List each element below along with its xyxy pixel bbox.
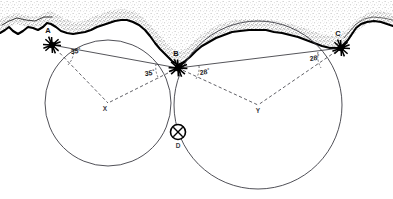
angle-label-at-B-right: 28° xyxy=(199,67,210,76)
point-label-D: D xyxy=(176,142,181,149)
station-label-A: A xyxy=(45,26,51,35)
land-stipple-fill xyxy=(0,0,393,70)
point-label-X: X xyxy=(103,105,108,112)
svg-text:28°: 28° xyxy=(199,67,210,76)
construction-line-B-Y xyxy=(178,68,258,105)
angle-degree-sign-at-B-left: ° xyxy=(152,68,155,74)
coastline-group xyxy=(0,0,393,70)
angle-arc-at-B-right xyxy=(196,66,199,79)
ship-position-symbol xyxy=(171,125,186,140)
angle-label-at-B-left: 35° xyxy=(144,68,155,77)
survey-station-star-icon xyxy=(332,40,350,57)
angle-label-at-A: 35° xyxy=(70,46,81,55)
svg-text:35°: 35° xyxy=(144,68,155,77)
angle-degree-sign-at-B-right: ° xyxy=(207,67,210,73)
station-label-B: B xyxy=(173,49,179,58)
diagram-canvas: A B C X Y D 35° 35° 28° xyxy=(0,0,393,199)
station-marker-A xyxy=(43,37,61,54)
station-marker-B xyxy=(169,59,188,77)
point-label-Y: Y xyxy=(256,107,261,114)
construction-lines-group xyxy=(52,45,341,105)
survey-diagram-figure: A B C X Y D 35° 35° 28° xyxy=(0,0,393,199)
angle-arc-at-B-left xyxy=(156,64,159,79)
svg-text:35°: 35° xyxy=(70,46,81,55)
survey-station-star-icon xyxy=(169,59,188,77)
station-marker-C xyxy=(332,40,350,57)
survey-station-star-icon xyxy=(43,37,61,54)
construction-line-B-X xyxy=(108,68,178,103)
angle-degree-sign-at-C: ° xyxy=(317,53,320,59)
station-label-C: C xyxy=(335,29,341,38)
